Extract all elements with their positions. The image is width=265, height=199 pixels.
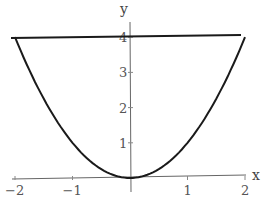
y-tick-label: 3 bbox=[119, 65, 127, 80]
plot-canvas: x y −2−1121234 bbox=[0, 0, 265, 199]
y-axis-label: y bbox=[119, 1, 128, 17]
x-tick-label: 2 bbox=[241, 183, 249, 198]
y-tick-label: 4 bbox=[119, 30, 127, 45]
x-axis-label: x bbox=[252, 167, 260, 183]
y-tick-label: 2 bbox=[119, 101, 127, 116]
tick-labels: −2−1121234 bbox=[5, 30, 249, 198]
x-tick-label: −2 bbox=[5, 183, 24, 198]
y-tick-label: 1 bbox=[119, 136, 127, 151]
x-tick-label: −1 bbox=[63, 183, 82, 198]
x-tick-label: 1 bbox=[184, 183, 192, 198]
y-axis bbox=[130, 22, 131, 192]
